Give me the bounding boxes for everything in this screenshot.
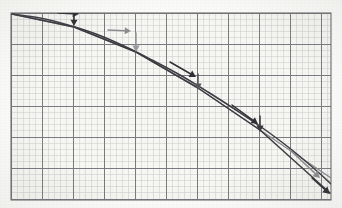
diagram-canvas: [0, 0, 342, 208]
graph-paper-figure: [0, 0, 342, 208]
